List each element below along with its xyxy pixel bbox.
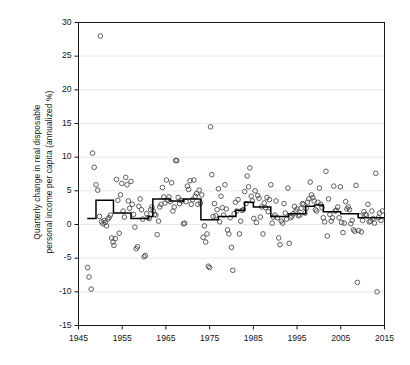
scatter-point [215, 207, 220, 212]
y-axis-tick-label: 5 [67, 185, 72, 195]
y-axis-tick-label: 25 [62, 50, 72, 60]
scatter-point [276, 236, 281, 241]
scatter-point [89, 287, 94, 292]
scatter-point [130, 202, 135, 207]
scatter-point [139, 207, 144, 212]
scatter-point [85, 265, 90, 270]
y-axis-tick-label: 15 [62, 118, 72, 128]
scatter-point [274, 199, 279, 204]
scatter-point [331, 184, 336, 189]
scatter-point [355, 280, 360, 285]
y-axis-tick-label: 0 [67, 219, 72, 229]
scatter-point [322, 220, 327, 225]
scatter-point [317, 186, 322, 191]
scatter-point [366, 202, 371, 207]
x-axis-tick-label: 1995 [277, 333, 317, 343]
x-axis-tick-label: 2005 [321, 333, 361, 343]
scatter-point [129, 179, 134, 184]
scatter-point [341, 230, 346, 235]
scatter-point [343, 199, 348, 204]
scatter-point [94, 182, 99, 187]
scatter-point [210, 172, 215, 177]
scatter-point [125, 182, 130, 187]
y-axis-tick-label: -10 [59, 286, 71, 296]
scatter-point [133, 225, 138, 230]
y-axis-title-line-2: personal income per capita (annualized %… [44, 27, 56, 317]
scatter-point [97, 214, 102, 219]
scatter-point [87, 275, 92, 280]
scatter-series [85, 34, 384, 294]
x-axis-tick-label: 1975 [190, 333, 230, 343]
scatter-point [172, 205, 177, 210]
scatter-point [360, 218, 365, 223]
scatter-point [308, 180, 313, 185]
scatter-point [90, 151, 95, 156]
x-axis-tick-label: 1945 [59, 333, 99, 343]
scatter-point [278, 242, 283, 247]
scatter-point [223, 182, 228, 187]
scatter-point [131, 212, 136, 217]
scatter-point [236, 197, 241, 202]
scatter-point [233, 200, 238, 205]
scatter-point [258, 215, 263, 220]
scatter-point [156, 219, 161, 224]
y-axis-tick-label: 20 [62, 84, 72, 94]
scatter-point [203, 240, 208, 245]
scatter-point [176, 195, 181, 200]
scatter-point [227, 232, 232, 237]
scatter-point [126, 199, 131, 204]
scatter-point [269, 182, 274, 187]
scatter-point [283, 211, 288, 216]
scatter-point [337, 215, 342, 220]
scatter-point [231, 268, 236, 273]
scatter-point [326, 197, 331, 202]
scatter-point [261, 232, 266, 237]
scatter-point [287, 241, 292, 246]
scatter-point [262, 201, 267, 206]
scatter-point [189, 202, 194, 207]
scatter-point [325, 234, 330, 239]
scatter-point [354, 183, 359, 188]
scatter-point [98, 34, 103, 39]
x-axis-tick-label: 1955 [102, 333, 142, 343]
scatter-point [114, 177, 119, 182]
scatter-point [169, 180, 174, 185]
scatter-point [212, 201, 217, 206]
scatter-point [249, 194, 254, 199]
y-axis-tick-label: -15 [59, 320, 71, 330]
scatter-point [160, 185, 165, 190]
y-axis-tick-label: -5 [64, 252, 72, 262]
scatter-point [123, 175, 128, 180]
y-axis-tick-label: 30 [62, 17, 72, 27]
scatter-point [117, 231, 122, 236]
x-axis-tick-label: 1985 [233, 333, 273, 343]
chart-figure: Quarterly change in real disposable pers… [0, 0, 410, 365]
scatter-point [205, 232, 210, 237]
scatter-point [379, 218, 384, 223]
scatter-point [95, 188, 100, 193]
scatter-point [237, 232, 242, 237]
plot-frame [79, 23, 385, 326]
scatter-point [282, 201, 287, 206]
scatter-point [201, 235, 206, 240]
scatter-point [370, 209, 375, 214]
scatter-point [246, 184, 251, 189]
scatter-point [266, 209, 271, 214]
scatter-point [338, 184, 343, 189]
scatter-point [116, 198, 121, 203]
scatter-point [286, 186, 291, 191]
scatter-point [219, 194, 224, 199]
scatter-point [119, 181, 124, 186]
scatter-point [155, 232, 160, 237]
y-axis-tick-label: 10 [62, 151, 72, 161]
scatter-point [208, 125, 213, 130]
scatter-point [292, 204, 297, 209]
scatter-point [197, 188, 202, 193]
scatter-point [92, 165, 97, 170]
scatter-point [242, 189, 247, 194]
scatter-point [373, 171, 378, 176]
scatter-point [138, 197, 143, 202]
scatter-point [164, 178, 169, 183]
y-axis-title-line-1: Quarterly change in real disposable [32, 27, 44, 317]
scatter-point [122, 215, 127, 220]
